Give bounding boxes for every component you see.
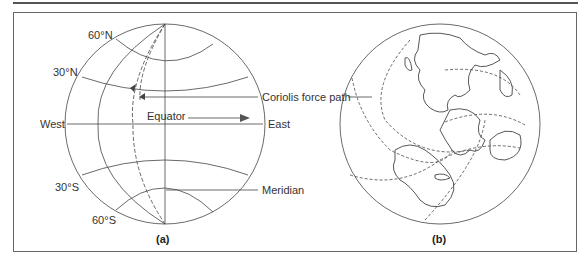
caption-a: (a) <box>156 233 169 245</box>
label-coriolis: Coriolis force path <box>262 91 351 103</box>
label-30n: 30°N <box>53 66 78 78</box>
label-meridian: Meridian <box>262 184 304 196</box>
caption-b: (b) <box>432 233 446 245</box>
label-60s: 60°S <box>92 214 116 226</box>
globe-a <box>65 24 265 224</box>
label-equator: Equator <box>147 110 186 122</box>
label-east: East <box>268 118 290 130</box>
label-west: West <box>40 118 65 130</box>
label-60n: 60°N <box>88 29 113 41</box>
label-30s: 30°S <box>55 181 79 193</box>
globe-b <box>340 24 540 224</box>
